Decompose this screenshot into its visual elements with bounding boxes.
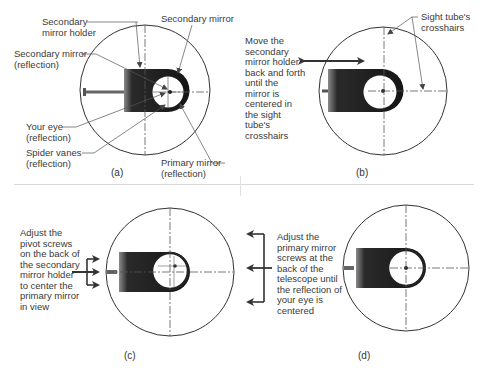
instruction-d: Adjust the primary mirror screws at the … <box>277 232 342 316</box>
label-sight-tube-crosshairs: Sight tube's crosshairs <box>421 12 470 33</box>
instruction-c: Adjust the pivot screws on the back of t… <box>20 228 80 312</box>
panel-b-drawing <box>304 17 447 155</box>
collimation-diagram: Secondary mirror holder Secondary mirror… <box>0 0 482 374</box>
panel-separator-horizontal <box>14 184 474 185</box>
instruction-b: Move the secondary mirror holder back an… <box>245 36 305 141</box>
caption-c: (c) <box>124 350 136 361</box>
label-secondary-mirror-reflection: Secondary mirror (reflection) <box>14 49 87 70</box>
label-your-eye-reflection: Your eye (reflection) <box>26 122 71 143</box>
label-primary-mirror-reflection: Primary mirror (reflection) <box>161 158 221 179</box>
label-secondary-mirror: Secondary mirror <box>161 14 234 25</box>
panel-a-drawing <box>62 22 225 163</box>
label-spider-vanes-reflection: Spider vanes (reflection) <box>26 148 81 169</box>
label-secondary-mirror-holder: Secondary mirror holder <box>42 17 96 38</box>
panel-c-drawing <box>72 208 234 336</box>
primary-screws-arrows <box>248 234 272 302</box>
caption-b: (b) <box>356 167 368 178</box>
caption-d: (d) <box>358 350 370 361</box>
panel-separator-vertical <box>240 176 241 196</box>
caption-a: (a) <box>111 167 123 178</box>
